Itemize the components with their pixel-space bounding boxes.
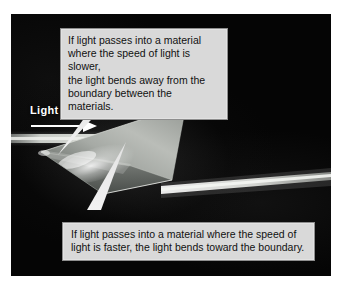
- refraction-figure: Light in If light passes into a material…: [0, 0, 343, 288]
- outgoing-light-beam: [161, 168, 331, 198]
- callout-bottom-text: If light passes into a material where th…: [71, 228, 306, 254]
- photo-panel: Light in If light passes into a material…: [11, 14, 331, 276]
- callout-top: If light passes into a material where th…: [60, 28, 228, 120]
- callout-bottom: If light passes into a material where th…: [62, 222, 315, 261]
- callout-top-text: If light passes into a material where th…: [68, 34, 220, 113]
